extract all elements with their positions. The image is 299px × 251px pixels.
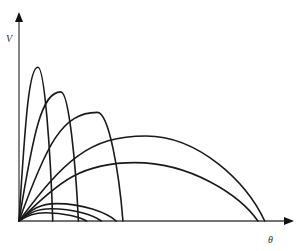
y-axis-label: V (6, 33, 14, 44)
curve-group (19, 67, 265, 221)
curve-2 (19, 92, 78, 221)
curve-5 (19, 163, 258, 221)
x-axis-label: θ (268, 234, 273, 245)
diagram-canvas: V θ (0, 0, 299, 251)
